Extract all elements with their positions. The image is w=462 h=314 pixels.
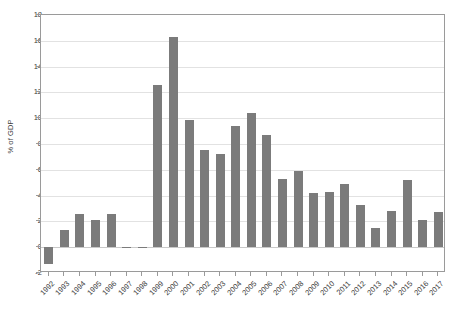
x-tick-mark	[48, 272, 49, 276]
x-tick-mark	[437, 272, 438, 276]
bar	[122, 247, 131, 248]
bar	[434, 212, 443, 247]
bar	[387, 211, 396, 247]
x-tick-mark	[297, 272, 298, 276]
bar	[294, 171, 303, 247]
x-tick-mark	[157, 272, 158, 276]
bar	[309, 193, 318, 247]
bar	[138, 247, 147, 248]
bar	[403, 180, 412, 247]
x-tick-mark	[63, 272, 64, 276]
x-tick-mark	[406, 272, 407, 276]
x-tick-mark	[219, 272, 220, 276]
bar	[169, 37, 178, 247]
x-tick-mark	[110, 272, 111, 276]
x-tick-mark	[422, 272, 423, 276]
gridline	[41, 170, 444, 171]
gridline	[41, 41, 444, 42]
bar	[153, 85, 162, 248]
x-tick-mark	[391, 272, 392, 276]
plot-area	[40, 14, 445, 272]
bar	[356, 205, 365, 248]
bar	[185, 120, 194, 248]
bar	[60, 230, 69, 247]
zero-line	[41, 247, 444, 248]
bar	[91, 220, 100, 247]
bar	[75, 214, 84, 248]
bar	[247, 113, 256, 247]
gridline	[41, 118, 444, 119]
x-tick-mark	[141, 272, 142, 276]
x-tick-mark	[266, 272, 267, 276]
y-axis-title-label: % of GDP	[6, 119, 15, 153]
bar	[418, 220, 427, 247]
x-tick-mark	[95, 272, 96, 276]
bar	[200, 150, 209, 247]
bar	[107, 214, 116, 247]
gridline	[41, 196, 444, 197]
gridline	[41, 144, 444, 145]
bar	[325, 192, 334, 248]
bar	[278, 179, 287, 247]
x-tick-mark	[79, 272, 80, 276]
x-tick-mark	[188, 272, 189, 276]
x-tick-mark	[172, 272, 173, 276]
y-axis-title: % of GDP	[2, 0, 18, 272]
bar	[231, 126, 240, 247]
x-tick-mark	[126, 272, 127, 276]
bar	[44, 247, 53, 264]
bar	[371, 228, 380, 247]
gridline	[41, 92, 444, 93]
x-tick-mark	[344, 272, 345, 276]
x-tick-mark	[250, 272, 251, 276]
x-tick-mark	[359, 272, 360, 276]
x-tick-mark	[235, 272, 236, 276]
x-tick-mark	[281, 272, 282, 276]
bar-chart: % of GDP -2024681012141618 1992199319941…	[0, 0, 462, 314]
x-tick-mark	[328, 272, 329, 276]
bar	[340, 184, 349, 247]
x-tick-mark	[313, 272, 314, 276]
bar	[262, 135, 271, 247]
gridline	[41, 221, 444, 222]
gridline	[41, 67, 444, 68]
y-tick-mark	[36, 272, 40, 273]
bar	[216, 154, 225, 247]
x-tick-mark	[204, 272, 205, 276]
x-tick-mark	[375, 272, 376, 276]
